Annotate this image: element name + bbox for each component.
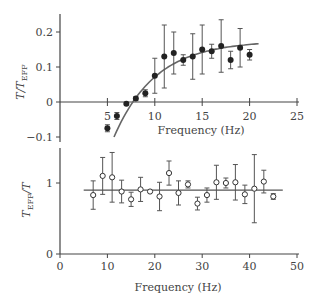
marker (133, 96, 139, 102)
data-point (233, 165, 238, 201)
marker (199, 47, 205, 53)
marker (233, 180, 238, 185)
data-point (190, 34, 196, 80)
data-point (123, 101, 129, 107)
marker (195, 201, 200, 206)
data-point (271, 194, 276, 200)
x-tick-label: 30 (195, 260, 209, 273)
data-point (157, 182, 162, 210)
x-tick-label: 10 (100, 260, 114, 273)
data-point (171, 32, 177, 74)
marker (119, 189, 124, 194)
chart-figure: −0.100.10.2510152025Frequency (Hz)T/TEFF… (0, 0, 318, 303)
data-point (129, 192, 134, 206)
data-point (247, 50, 253, 61)
marker (161, 54, 167, 60)
data-point (195, 197, 200, 210)
marker (223, 180, 228, 185)
marker (209, 48, 215, 54)
marker (91, 192, 96, 197)
marker (204, 192, 209, 197)
data-point (252, 155, 257, 223)
marker (176, 190, 181, 195)
data-point (176, 181, 181, 205)
marker (190, 54, 196, 60)
marker (228, 57, 234, 63)
marker (180, 57, 186, 63)
data-point (138, 177, 143, 201)
marker (214, 180, 219, 185)
data-point (147, 189, 152, 194)
data-point (91, 181, 96, 209)
data-point (242, 185, 247, 203)
x-axis-label: Frequency (Hz) (135, 281, 222, 294)
marker (261, 179, 266, 184)
data-point (209, 44, 215, 58)
x-axis-label: Frequency (Hz) (158, 124, 245, 137)
marker (252, 186, 257, 191)
marker (218, 43, 224, 49)
marker (147, 189, 152, 194)
marker (242, 192, 247, 197)
data-point (214, 165, 219, 199)
data-point (114, 113, 120, 120)
marker (123, 101, 129, 107)
data-point (180, 55, 186, 66)
data-point (199, 25, 205, 74)
y-tick-label: 0 (46, 248, 53, 261)
x-tick-label: 20 (243, 110, 257, 123)
marker (171, 50, 177, 56)
data-point (223, 178, 228, 188)
marker (185, 182, 190, 187)
y-tick-label: 0 (46, 96, 53, 109)
y-axis-label: T/TEFF (14, 64, 29, 100)
bottom-panel: 0101020304050Frequency (Hz)TEFF/T (20, 148, 304, 294)
x-tick-label: 5 (104, 110, 111, 123)
y-tick-label: −0.1 (26, 131, 53, 144)
data-point (237, 29, 243, 68)
marker (114, 113, 120, 119)
marker (104, 125, 110, 131)
data-point (142, 90, 148, 97)
marker (247, 52, 253, 58)
y-tick-label: 1 (46, 177, 53, 190)
data-point (152, 58, 158, 93)
marker (157, 194, 162, 199)
marker (138, 187, 143, 192)
x-tick-label: 20 (148, 260, 162, 273)
marker (152, 73, 158, 79)
data-point (185, 181, 190, 188)
x-tick-label: 25 (290, 110, 304, 123)
y-axis-label: TEFF/T (20, 181, 35, 218)
data-point (110, 152, 115, 202)
data-point (161, 25, 167, 88)
data-point (218, 20, 224, 73)
y-tick-label: 0.2 (36, 26, 54, 39)
marker (142, 90, 148, 96)
y-tick-label: 0.1 (36, 61, 54, 74)
data-point (100, 157, 105, 194)
marker (166, 170, 171, 175)
x-tick-label: 0 (57, 260, 64, 273)
data-point (228, 51, 234, 69)
x-tick-label: 50 (290, 260, 304, 273)
x-tick-label: 40 (243, 260, 257, 273)
marker (129, 197, 134, 202)
marker (237, 45, 243, 51)
data-point (166, 161, 171, 185)
x-tick-label: 10 (148, 110, 162, 123)
data-point (119, 180, 124, 203)
data-point (104, 125, 110, 132)
x-tick-label: 15 (195, 110, 209, 123)
marker (100, 173, 105, 178)
marker (110, 175, 115, 180)
top-panel: −0.100.10.2510152025Frequency (Hz)T/TEFF (14, 14, 304, 144)
marker (271, 194, 276, 199)
data-point (133, 96, 139, 102)
